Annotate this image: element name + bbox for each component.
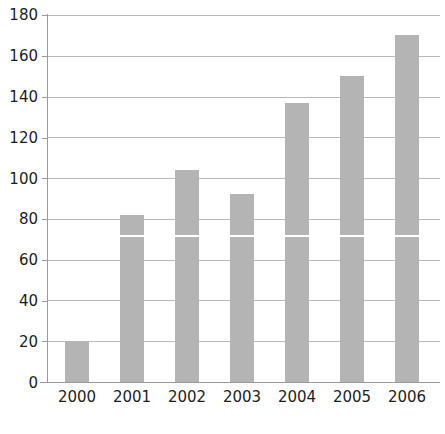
y-tick-label-60: 60 — [0, 253, 38, 268]
x-axis-line — [40, 382, 440, 383]
bar-2003 — [230, 194, 254, 382]
gridline-160 — [48, 56, 440, 57]
bar-2006 — [395, 35, 419, 382]
bar-2000 — [65, 341, 89, 382]
x-tick-label-2006: 2006 — [377, 390, 437, 405]
bar-chart: 180 160 140 120 100 80 60 40 20 0 — [0, 0, 445, 434]
bar-2001 — [120, 215, 144, 382]
gridline-120 — [48, 137, 440, 138]
x-tick-label-2002: 2002 — [157, 390, 217, 405]
gridline-140 — [48, 97, 440, 98]
y-tick-label-40: 40 — [0, 294, 38, 309]
y-tick-label-120: 120 — [0, 131, 38, 146]
x-tick-label-2004: 2004 — [267, 390, 327, 405]
x-tick-label-2003: 2003 — [212, 390, 272, 405]
y-tick-label-160: 160 — [0, 49, 38, 64]
y-tick-label-140: 140 — [0, 90, 38, 105]
y-tick-label-180: 180 — [0, 8, 38, 23]
overlay-gridline-artifact — [48, 235, 440, 237]
gridline-100 — [48, 178, 440, 179]
y-tick-label-100: 100 — [0, 172, 38, 187]
x-tick-label-2001: 2001 — [102, 390, 162, 405]
x-tick-label-2000: 2000 — [47, 390, 107, 405]
plot-area — [48, 15, 440, 382]
bar-2004 — [285, 103, 309, 382]
y-tick-label-0: 0 — [0, 376, 38, 391]
y-tick-label-20: 20 — [0, 335, 38, 350]
x-tick-label-2005: 2005 — [322, 390, 382, 405]
bar-2002 — [175, 170, 199, 382]
gridline-180 — [48, 15, 440, 16]
y-tick-label-80: 80 — [0, 212, 38, 227]
bar-2005 — [340, 76, 364, 382]
